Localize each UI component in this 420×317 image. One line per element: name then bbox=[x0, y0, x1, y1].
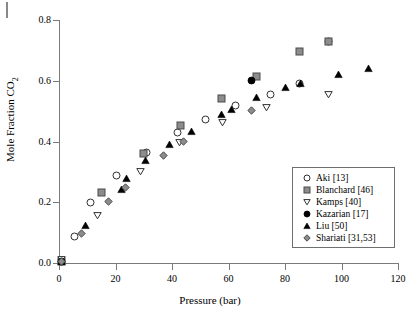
data-point bbox=[201, 115, 210, 124]
x-tick-mark bbox=[285, 264, 286, 270]
figure-container: 0.00.20.40.60.8 020406080100120 Pressure… bbox=[0, 0, 420, 317]
data-point bbox=[262, 103, 271, 112]
data-point bbox=[141, 156, 150, 165]
legend-label: Blanchard [46] bbox=[316, 185, 373, 196]
page-edge-artifact bbox=[6, 2, 8, 18]
y-axis-label-subscript: 2 bbox=[11, 77, 20, 81]
data-point bbox=[121, 183, 130, 192]
data-point bbox=[295, 47, 304, 56]
data-point bbox=[159, 151, 168, 160]
x-tick-label: 20 bbox=[96, 274, 136, 284]
data-point bbox=[217, 110, 226, 119]
legend-item: Blanchard [46] bbox=[293, 184, 394, 196]
x-tick-mark bbox=[229, 264, 230, 270]
data-point bbox=[334, 70, 343, 79]
data-point bbox=[364, 64, 373, 73]
x-tick-label: 80 bbox=[265, 274, 305, 284]
y-axis-label-text: Mole Fraction CO bbox=[4, 81, 16, 162]
x-tick-label: 120 bbox=[378, 274, 418, 284]
data-point bbox=[97, 188, 106, 197]
data-point bbox=[165, 140, 174, 149]
data-point bbox=[281, 83, 290, 92]
data-point bbox=[179, 137, 188, 146]
y-tick-label: 0.8 bbox=[21, 15, 51, 25]
legend-item: Kazarian [17] bbox=[293, 208, 394, 220]
x-tick-mark bbox=[172, 264, 173, 270]
data-point bbox=[187, 127, 196, 136]
data-point bbox=[247, 106, 256, 115]
data-point bbox=[217, 94, 226, 103]
y-axis-label: Mole Fraction CO2 bbox=[4, 40, 19, 200]
data-point bbox=[112, 171, 121, 180]
legend-marker-icon bbox=[300, 185, 316, 196]
data-point bbox=[324, 37, 333, 46]
legend-marker-icon bbox=[300, 197, 316, 208]
x-tick-mark bbox=[398, 264, 399, 270]
x-tick-label: 100 bbox=[322, 274, 362, 284]
y-tick-label: 0.4 bbox=[21, 137, 51, 147]
data-point bbox=[93, 211, 102, 220]
legend-marker-icon bbox=[300, 221, 316, 232]
data-point bbox=[57, 257, 66, 266]
y-tick-label: 0.0 bbox=[21, 258, 51, 268]
data-point bbox=[252, 93, 261, 102]
legend-label: Kazarian [17] bbox=[316, 209, 368, 220]
x-tick-mark bbox=[342, 264, 343, 270]
data-point bbox=[296, 79, 305, 88]
data-point bbox=[227, 105, 236, 114]
legend-item: Shariati [31,53] bbox=[293, 232, 394, 244]
legend-marker-icon bbox=[300, 233, 316, 244]
data-point bbox=[77, 229, 86, 238]
legend-label: Aki [13] bbox=[316, 173, 348, 184]
data-point bbox=[136, 167, 145, 176]
legend-item: Liu [50] bbox=[293, 220, 394, 232]
data-point bbox=[247, 76, 256, 85]
chart-legend: Aki [13]Blanchard [46]Kamps [40]Kazarian… bbox=[292, 167, 395, 248]
data-point bbox=[266, 90, 275, 99]
y-tick-label: 0.6 bbox=[21, 76, 51, 86]
legend-item: Aki [13] bbox=[293, 172, 394, 184]
data-point bbox=[176, 121, 185, 130]
legend-marker-icon bbox=[300, 209, 316, 220]
data-point bbox=[324, 90, 333, 99]
legend-label: Shariati [31,53] bbox=[316, 233, 376, 244]
x-tick-mark bbox=[116, 264, 117, 270]
x-axis-label: Pressure (bar) bbox=[0, 294, 420, 306]
data-point bbox=[218, 118, 227, 127]
legend-label: Liu [50] bbox=[316, 221, 347, 232]
x-tick-label: 40 bbox=[152, 274, 192, 284]
data-point bbox=[104, 197, 113, 206]
legend-marker-icon bbox=[300, 173, 316, 184]
data-point bbox=[86, 198, 95, 207]
legend-label: Kamps [40] bbox=[316, 197, 361, 208]
x-tick-label: 0 bbox=[39, 274, 79, 284]
x-tick-label: 60 bbox=[209, 274, 249, 284]
y-tick-label: 0.2 bbox=[21, 197, 51, 207]
legend-item: Kamps [40] bbox=[293, 196, 394, 208]
